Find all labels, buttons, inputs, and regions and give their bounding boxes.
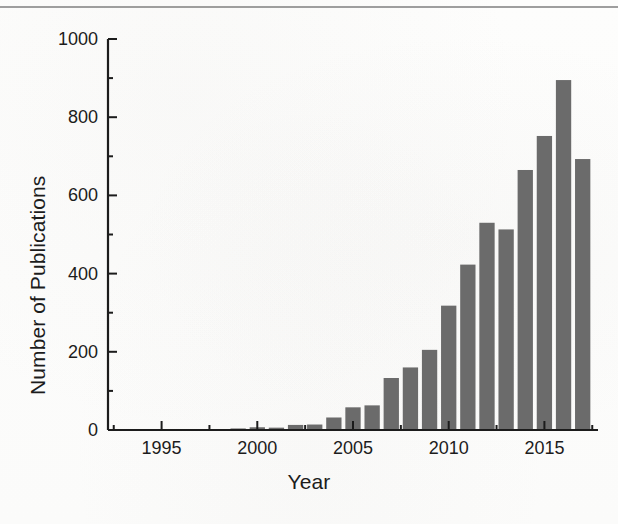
bar-2006	[364, 405, 379, 430]
x-tick-label-2000: 2000	[237, 438, 277, 459]
bar-2007	[384, 378, 399, 430]
bar-2011	[460, 265, 475, 430]
bar-2015	[537, 136, 552, 430]
publications-bar-chart: Number of Publications Year 020040060080…	[0, 0, 618, 524]
bar-2004	[326, 417, 341, 430]
bar-2012	[479, 223, 494, 430]
x-tick-label-1995: 1995	[142, 438, 182, 459]
bar-2010	[441, 306, 456, 430]
bar-2016	[556, 80, 571, 430]
bar-2009	[422, 350, 437, 430]
y-tick-label-1000: 1000	[0, 29, 98, 50]
bar-series	[154, 80, 590, 431]
y-tick-label-600: 600	[0, 185, 98, 206]
y-tick-label-0: 0	[0, 420, 98, 441]
bar-2013	[498, 229, 513, 430]
x-tick-label-2010: 2010	[429, 438, 469, 459]
y-tick-label-800: 800	[0, 107, 98, 128]
bar-2017	[575, 159, 590, 430]
y-tick-label-200: 200	[0, 341, 98, 362]
x-tick-label-2015: 2015	[524, 438, 564, 459]
bar-2014	[518, 170, 533, 430]
bar-2008	[403, 367, 418, 430]
x-tick-label-2005: 2005	[333, 438, 373, 459]
y-tick-label-400: 400	[0, 263, 98, 284]
x-axis-title: Year	[0, 470, 618, 494]
